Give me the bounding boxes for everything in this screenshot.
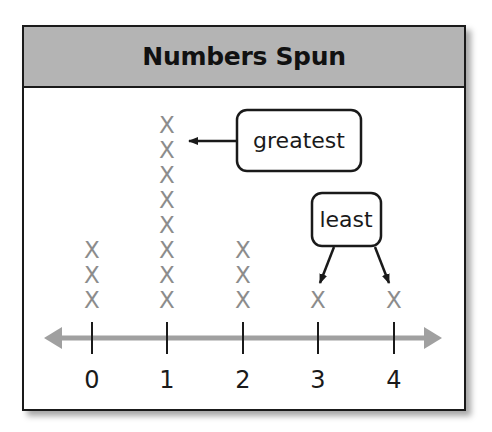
left-arrow-icon bbox=[44, 327, 62, 349]
tick-label-4: 4 bbox=[386, 366, 401, 394]
x-mark: X bbox=[159, 287, 175, 313]
x-mark: X bbox=[159, 212, 175, 238]
x-mark: X bbox=[235, 287, 251, 313]
line-plot: 01234 XXXXXXXXXXXXXXXX greatest least bbox=[0, 0, 492, 432]
arrow-least-right-icon bbox=[375, 247, 389, 283]
tick-label-0: 0 bbox=[84, 366, 99, 394]
callout-greatest-label: greatest bbox=[253, 128, 345, 153]
arrow-least-left-icon bbox=[320, 247, 334, 283]
right-arrow-icon bbox=[424, 327, 442, 349]
x-mark: X bbox=[159, 187, 175, 213]
x-mark: X bbox=[159, 162, 175, 188]
x-mark: X bbox=[159, 112, 175, 138]
x-mark: X bbox=[159, 137, 175, 163]
x-mark: X bbox=[386, 287, 402, 313]
axis-ticks: 01234 bbox=[84, 322, 401, 394]
x-mark: X bbox=[235, 262, 251, 288]
callout-least: least bbox=[312, 193, 389, 283]
callout-greatest: greatest bbox=[189, 110, 361, 171]
x-mark: X bbox=[235, 237, 251, 263]
tick-label-3: 3 bbox=[310, 366, 325, 394]
x-mark: X bbox=[84, 237, 100, 263]
x-mark: X bbox=[84, 287, 100, 313]
x-mark: X bbox=[159, 237, 175, 263]
tick-label-2: 2 bbox=[235, 366, 250, 394]
x-mark: X bbox=[310, 287, 326, 313]
tick-label-1: 1 bbox=[159, 366, 174, 394]
x-mark: X bbox=[159, 262, 175, 288]
callout-least-label: least bbox=[319, 207, 373, 232]
x-mark: X bbox=[84, 262, 100, 288]
